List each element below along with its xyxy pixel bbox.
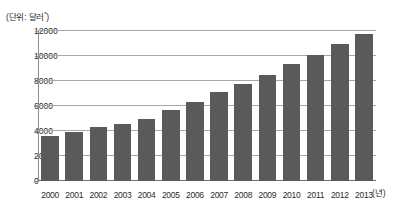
bar-2009 bbox=[259, 75, 277, 181]
bar-slot bbox=[304, 31, 328, 181]
x-tick-label-2002: 2002 bbox=[86, 190, 110, 201]
plot-area bbox=[38, 31, 376, 181]
x-tick-label-2009: 2009 bbox=[255, 190, 279, 201]
x-tick-label-2011: 2011 bbox=[304, 190, 328, 201]
x-tick-label-2005: 2005 bbox=[159, 190, 183, 201]
bar-slot bbox=[110, 31, 134, 181]
bar-slot bbox=[135, 31, 159, 181]
y-axis-labels: 020004000600080001000012000 bbox=[0, 0, 34, 209]
bar-2010 bbox=[283, 64, 301, 182]
bar-slot bbox=[86, 31, 110, 181]
x-tick-label-2001: 2001 bbox=[62, 190, 86, 201]
bar-slot bbox=[159, 31, 183, 181]
bar-2005 bbox=[162, 110, 180, 181]
unit-caption-close: ) bbox=[46, 12, 49, 22]
bar-slot bbox=[255, 31, 279, 181]
bar-slot bbox=[183, 31, 207, 181]
bar-2011 bbox=[307, 55, 325, 181]
x-tick-label-2006: 2006 bbox=[183, 190, 207, 201]
bar-2007 bbox=[210, 92, 228, 181]
bar-2002 bbox=[90, 127, 108, 181]
x-tick-label-2007: 2007 bbox=[207, 190, 231, 201]
bar-slot bbox=[207, 31, 231, 181]
x-axis-labels: 2000200120022003200420052006200720082009… bbox=[38, 185, 376, 201]
bar-slot bbox=[231, 31, 255, 181]
bar-2013 bbox=[355, 34, 373, 182]
x-tick-label-2012: 2012 bbox=[328, 190, 352, 201]
x-tick-label-2004: 2004 bbox=[135, 190, 159, 201]
bar-slot bbox=[328, 31, 352, 181]
bar-slot bbox=[352, 31, 376, 181]
bar-2003 bbox=[114, 124, 132, 182]
x-tick-label-2008: 2008 bbox=[231, 190, 255, 201]
bar-slot bbox=[38, 31, 62, 181]
x-tick-label-2003: 2003 bbox=[110, 190, 134, 201]
bar-2004 bbox=[138, 119, 156, 182]
bar-slot bbox=[279, 31, 303, 181]
bar-2008 bbox=[234, 84, 252, 182]
x-tick-label-2000: 2000 bbox=[38, 190, 62, 201]
x-tick-label-2010: 2010 bbox=[279, 190, 303, 201]
bar-2012 bbox=[331, 44, 349, 182]
bar-2006 bbox=[186, 102, 204, 181]
x-axis-unit-label: (년) bbox=[372, 188, 386, 199]
bar-2000 bbox=[41, 136, 59, 181]
bar-2001 bbox=[65, 132, 83, 181]
bar-chart-figure: (단위: 달러*) 020004000600080001000012000 20… bbox=[0, 0, 395, 209]
bar-slot bbox=[62, 31, 86, 181]
